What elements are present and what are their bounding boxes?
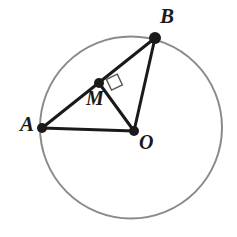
geometry-canvas: [0, 0, 237, 237]
vertex-label-o: O: [139, 132, 153, 152]
segment-mo: [99, 83, 134, 131]
geometry-diagram: A B M O: [0, 0, 237, 237]
segment-ao: [42, 128, 134, 131]
vertex-dot-o: [129, 126, 139, 136]
vertex-label-b: B: [160, 6, 174, 27]
vertex-dot-a: [37, 123, 47, 133]
vertex-dot-b: [149, 32, 161, 44]
vertex-label-m: M: [86, 88, 104, 108]
vertex-label-a: A: [20, 114, 34, 135]
